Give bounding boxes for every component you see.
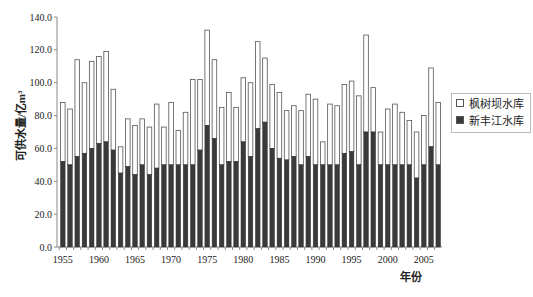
bar-xinfengjiang xyxy=(292,157,297,247)
bar-xinfengjiang xyxy=(198,150,203,247)
bar-xinfengjiang xyxy=(357,165,362,247)
bar-xinfengjiang xyxy=(248,157,253,247)
bar-fengshuba xyxy=(277,93,282,159)
bar-fengshuba xyxy=(378,132,383,165)
x-tick-label: 1990 xyxy=(306,254,326,265)
y-tick-label: 60.0 xyxy=(35,143,53,154)
bar-xinfengjiang xyxy=(147,175,152,247)
bar-xinfengjiang xyxy=(75,157,80,247)
bar-xinfengjiang xyxy=(183,165,188,247)
bar-xinfengjiang xyxy=(400,165,405,247)
bar-fengshuba xyxy=(335,106,340,165)
bar-fengshuba xyxy=(154,104,159,168)
bar-fengshuba xyxy=(176,130,181,165)
bar-fengshuba xyxy=(414,132,419,178)
bar-fengshuba xyxy=(385,109,390,165)
bar-xinfengjiang xyxy=(212,139,217,247)
legend-swatch-dark xyxy=(456,116,464,124)
bar-xinfengjiang xyxy=(349,152,354,247)
bar-fengshuba xyxy=(133,125,138,174)
bar-fengshuba xyxy=(219,107,224,165)
bar-fengshuba xyxy=(320,142,325,165)
x-tick-label: 1980 xyxy=(233,254,253,265)
stacked-bar-chart: 0.020.040.060.080.0100.0120.0140.0195519… xyxy=(0,0,533,297)
bar-xinfengjiang xyxy=(255,129,260,247)
bar-fengshuba xyxy=(104,52,109,142)
bar-fengshuba xyxy=(400,112,405,165)
bar-fengshuba xyxy=(212,60,217,139)
bar-xinfengjiang xyxy=(154,168,159,247)
y-tick-label: 100.0 xyxy=(30,77,53,88)
bar-fengshuba xyxy=(299,111,304,165)
y-tick-label: 20.0 xyxy=(35,209,53,220)
bar-fengshuba xyxy=(147,127,152,175)
bar-fengshuba xyxy=(97,56,102,143)
bar-xinfengjiang xyxy=(342,153,347,247)
legend: 枫树坝水库 新丰江水库 xyxy=(451,93,531,133)
bar-fengshuba xyxy=(328,104,333,165)
bar-xinfengjiang xyxy=(227,162,232,247)
bar-fengshuba xyxy=(183,112,188,165)
bar-xinfengjiang xyxy=(270,148,275,247)
bar-xinfengjiang xyxy=(422,165,427,247)
bar-xinfengjiang xyxy=(320,165,325,247)
bar-fengshuba xyxy=(75,60,80,157)
bar-xinfengjiang xyxy=(219,165,224,247)
x-tick-label: 1985 xyxy=(269,254,289,265)
bar-xinfengjiang xyxy=(313,165,318,247)
bar-fengshuba xyxy=(82,83,87,154)
bar-fengshuba xyxy=(61,102,66,161)
bar-xinfengjiang xyxy=(97,144,102,248)
bar-fengshuba xyxy=(255,42,260,129)
bar-fengshuba xyxy=(393,104,398,165)
bar-fengshuba xyxy=(364,35,369,132)
bar-fengshuba xyxy=(436,102,441,164)
bar-fengshuba xyxy=(190,79,195,164)
bar-fengshuba xyxy=(248,83,253,157)
bar-xinfengjiang xyxy=(118,173,123,247)
bar-fengshuba xyxy=(342,84,347,153)
bar-fengshuba xyxy=(284,111,289,160)
bar-xinfengjiang xyxy=(284,160,289,247)
x-tick-label: 1965 xyxy=(125,254,145,265)
bar-xinfengjiang xyxy=(277,158,282,247)
bar-fengshuba xyxy=(227,93,232,162)
bar-fengshuba xyxy=(205,30,210,125)
bar-fengshuba xyxy=(198,79,203,150)
bar-fengshuba xyxy=(306,94,311,156)
bar-xinfengjiang xyxy=(125,167,130,248)
bar-xinfengjiang xyxy=(364,132,369,247)
bar-xinfengjiang xyxy=(335,165,340,247)
y-tick-label: 140.0 xyxy=(30,12,53,23)
bar-fengshuba xyxy=(357,96,362,165)
bar-xinfengjiang xyxy=(393,165,398,247)
legend-swatch-white xyxy=(456,99,464,107)
bar-xinfengjiang xyxy=(190,165,195,247)
x-tick-label: 2005 xyxy=(414,254,434,265)
bar-fengshuba xyxy=(292,106,297,157)
bar-xinfengjiang xyxy=(414,178,419,247)
legend-label: 新丰江水库 xyxy=(469,112,524,128)
bar-fengshuba xyxy=(169,102,174,164)
bar-xinfengjiang xyxy=(89,148,94,247)
bar-xinfengjiang xyxy=(328,165,333,247)
bar-fengshuba xyxy=(140,119,145,165)
bar-xinfengjiang xyxy=(306,157,311,247)
legend-item-xinfengjiang: 新丰江水库 xyxy=(452,111,530,128)
bar-xinfengjiang xyxy=(140,165,145,247)
bar-xinfengjiang xyxy=(378,165,383,247)
bar-fengshuba xyxy=(241,78,246,142)
x-tick-label: 1955 xyxy=(53,254,73,265)
x-tick-label: 1975 xyxy=(197,254,217,265)
bar-fengshuba xyxy=(89,61,94,148)
bar-fengshuba xyxy=(349,81,354,152)
bar-xinfengjiang xyxy=(61,162,66,247)
bar-fengshuba xyxy=(118,147,123,173)
bar-fengshuba xyxy=(371,88,376,132)
bar-fengshuba xyxy=(111,89,116,150)
x-axis-label: 年份 xyxy=(400,268,422,284)
bar-xinfengjiang xyxy=(205,125,210,247)
legend-label: 枫树坝水库 xyxy=(469,95,524,111)
bar-fengshuba xyxy=(125,119,130,167)
bar-xinfengjiang xyxy=(234,162,239,247)
